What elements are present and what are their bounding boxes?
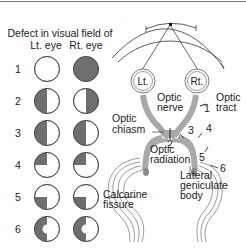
- label-lt: Lt.: [137, 76, 148, 87]
- right-eye-field: [74, 89, 99, 114]
- title-left-eye: Lt. eye: [30, 39, 62, 51]
- right-eye-field: [74, 57, 99, 82]
- left-eye-field: [35, 57, 60, 82]
- lgb-left: [143, 168, 149, 176]
- field-row: 1: [15, 57, 98, 82]
- lesion-5: 5: [199, 151, 205, 163]
- left-eye-field: [35, 153, 60, 178]
- right-eye-field: [74, 153, 99, 178]
- visual-field-arcs: [112, 23, 224, 70]
- left-eye-field: [35, 121, 60, 146]
- label-optic-nerve-2: nerve: [157, 101, 183, 113]
- label-optic-tract-2: tract: [216, 101, 237, 113]
- field-row: 3: [15, 121, 98, 146]
- row-number: 3: [15, 127, 21, 139]
- field-defect: [86, 89, 98, 114]
- field-rows: 123456: [15, 57, 98, 242]
- field-defect: [35, 89, 48, 114]
- row-number: 6: [15, 223, 21, 235]
- label-lgb-3: body: [180, 189, 204, 201]
- right-eye-field: [74, 185, 99, 210]
- row-number: 4: [15, 159, 21, 171]
- field-row: 5: [15, 185, 98, 210]
- field-row: 4: [15, 153, 98, 178]
- field-row: 6: [15, 217, 98, 242]
- label-rt: Rt.: [191, 76, 204, 87]
- lesion-4: 4: [206, 122, 212, 134]
- field-defect: [35, 121, 48, 146]
- label-optic-chiasm-2: chiasm: [112, 123, 146, 135]
- left-eye-field: [35, 217, 60, 242]
- row-number: 1: [15, 63, 21, 75]
- title-line1: Defect in visual field of: [7, 27, 112, 39]
- title-right-eye: Rt. eye: [69, 39, 102, 51]
- left-eye-field: [35, 89, 60, 114]
- label-optic-radiation-2: radiation: [150, 153, 190, 165]
- field-defect: [73, 121, 86, 146]
- right-eye-field: [73, 121, 98, 146]
- field-row: 2: [15, 89, 98, 114]
- right-eye-field: [73, 217, 98, 242]
- label-calcarine-2: fissure: [103, 198, 134, 210]
- lesion-1: 1: [204, 102, 210, 114]
- visual-pathway-diagram: Defect in visual field of Lt. eye Rt. ey…: [0, 0, 246, 252]
- lesion-6: 6: [220, 162, 226, 174]
- left-eye-field: [35, 185, 60, 210]
- row-number: 2: [15, 95, 21, 107]
- row-number: 5: [15, 191, 21, 203]
- lesion-3: 3: [188, 124, 194, 136]
